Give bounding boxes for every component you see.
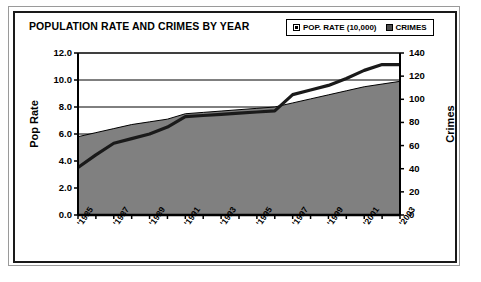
y-axis-left-title: Pop Rate (28, 84, 40, 164)
y-axis-right-tick-label: 140 (409, 47, 425, 58)
y-axis-left-tick-label: 4.0 (24, 155, 72, 166)
y-axis-left-tick-label: 10.0 (24, 74, 72, 85)
y-axis-left-tick-label: 0.0 (24, 209, 72, 220)
y-axis-right-tick-label: 80 (409, 116, 420, 127)
y-axis-right-tick-label: 20 (409, 186, 420, 197)
y-axis-right-tick-label: 120 (409, 70, 425, 81)
y-axis-right-tick-label: 40 (409, 163, 420, 174)
y-axis-left-tick-label: 2.0 (24, 182, 72, 193)
y-axis-right-title: Crimes (444, 84, 456, 164)
chart-container: POPULATION RATE AND CRIMES BY YEAR POP. … (0, 0, 481, 282)
y-axis-left-tick-label: 12.0 (24, 47, 72, 58)
y-axis-right-tick-label: 100 (409, 93, 425, 104)
y-axis-left-tick-label: 8.0 (24, 101, 72, 112)
y-axis-right-tick-label: 60 (409, 140, 420, 151)
y-axis-left-tick-label: 6.0 (24, 128, 72, 139)
